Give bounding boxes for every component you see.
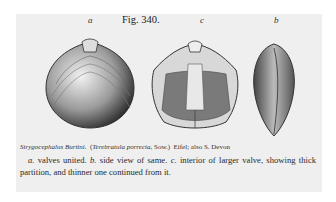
figure-title: Fig. 340. <box>122 14 160 25</box>
figure-description: a. valves united. b. side view of same. … <box>20 154 316 178</box>
shell-interior-illustration <box>146 40 244 132</box>
species-name: Strygocephalus Burtini. <box>20 143 87 151</box>
locality: Eifel; also S. Devon <box>174 143 230 151</box>
shell-side-illustration <box>250 42 298 138</box>
text-a: valves united. <box>34 155 90 165</box>
shell-exterior-illustration <box>42 38 138 130</box>
label-b: b <box>274 15 279 25</box>
figure-caption: Strygocephalus Burtini. (Terebratula por… <box>20 143 320 151</box>
synonym-author: , Sow.) <box>150 143 170 151</box>
text-b: side view of same. <box>96 155 170 165</box>
label-a: a <box>88 15 93 25</box>
synonym-name: Terebratula porrecta <box>92 143 150 151</box>
label-c: c <box>200 15 204 25</box>
